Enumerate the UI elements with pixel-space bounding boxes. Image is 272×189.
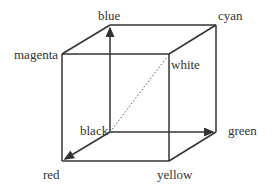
label-red: red bbox=[43, 168, 60, 181]
edge-cyan-white bbox=[169, 25, 216, 54]
label-blue: blue bbox=[98, 9, 120, 22]
label-green: green bbox=[228, 124, 257, 137]
edge-magenta-blue bbox=[62, 25, 110, 54]
label-white: white bbox=[171, 58, 200, 71]
label-magenta: magenta bbox=[14, 48, 58, 61]
color-cube bbox=[0, 0, 272, 189]
label-yellow: yellow bbox=[157, 168, 192, 181]
label-black: black bbox=[80, 124, 108, 137]
diagonal-black-white bbox=[110, 57, 167, 132]
label-cyan: cyan bbox=[218, 9, 243, 22]
edge-yellow-green bbox=[169, 132, 216, 161]
